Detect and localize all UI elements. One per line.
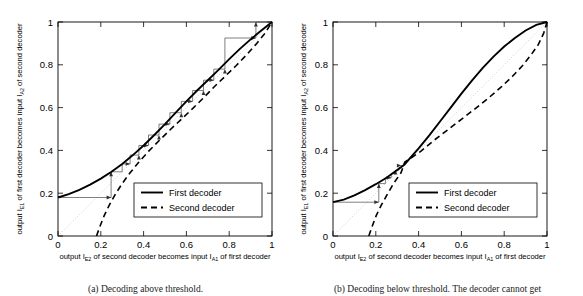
chart-b-svg: 0 0.2 0.4 0.6 0.8 1 0 0.2 0.4 0.6 0.8 1 (292, 0, 583, 268)
y-tick-label: 0.6 (40, 102, 53, 113)
y-tick-label: 0.8 (315, 59, 328, 70)
y-tick-label: 0.2 (315, 188, 328, 199)
legend-label-first: First decoder (444, 188, 497, 198)
y-tick-label: 0 (48, 231, 53, 242)
y-axis-label: output IE1 of first decoder becomes inpu… (299, 23, 309, 235)
x-tick-label: 1 (544, 239, 549, 250)
legend-label-second: Second decoder (444, 203, 510, 213)
legend-label-first: First decoder (169, 188, 222, 198)
y-tick-label: 0.2 (40, 188, 53, 199)
caption-b: (b) Decoding below threshold. The decode… (292, 284, 583, 294)
caption-a: (a) Decoding above threshold. (0, 284, 291, 294)
legend: First decoder Second decoder (134, 183, 262, 217)
y-tick-label: 0.8 (40, 59, 53, 70)
x-tick-label: 0 (55, 239, 60, 250)
legend-label-second: Second decoder (169, 203, 235, 213)
y-tick-label: 1 (48, 17, 53, 28)
exit-chart-figure: 0 0.2 0.4 0.6 0.8 1 0 0.2 0.4 0.6 0.8 1 (0, 0, 583, 296)
x-tick-label: 0.8 (498, 239, 511, 250)
y-tick-label: 0.6 (315, 102, 328, 113)
y-axis-label: output IE1 of first decoder becomes inpu… (15, 23, 25, 235)
x-tick-label: 1 (269, 239, 274, 250)
x-tick-label: 0.6 (455, 239, 468, 250)
x-tick-label: 0.4 (137, 239, 150, 250)
x-axis-label: output IE2 of second decoder becomes inp… (334, 252, 546, 262)
y-tick-label: 0.4 (40, 145, 53, 156)
y-tick-label: 0.4 (315, 145, 328, 156)
x-tick-label: 0.4 (412, 239, 425, 250)
y-tick-label: 1 (323, 17, 328, 28)
panel-a: 0 0.2 0.4 0.6 0.8 1 0 0.2 0.4 0.6 0.8 1 (0, 0, 291, 268)
x-tick-label: 0.2 (369, 239, 382, 250)
x-tick-label: 0.6 (180, 239, 193, 250)
x-tick-label: 0.8 (223, 239, 236, 250)
x-axis-label: output IE2 of second decoder becomes inp… (59, 252, 271, 262)
legend: First decoder Second decoder (409, 183, 537, 217)
chart-a-svg: 0 0.2 0.4 0.6 0.8 1 0 0.2 0.4 0.6 0.8 1 (0, 0, 291, 268)
y-tick-label: 0 (323, 231, 328, 242)
panel-b: 0 0.2 0.4 0.6 0.8 1 0 0.2 0.4 0.6 0.8 1 (292, 0, 583, 268)
x-tick-label: 0 (330, 239, 335, 250)
x-tick-label: 0.2 (94, 239, 107, 250)
